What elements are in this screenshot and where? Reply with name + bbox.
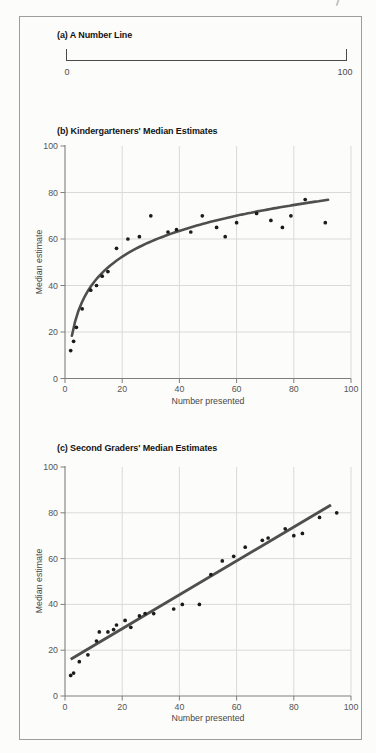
logarithmic-fit-curve	[72, 200, 328, 336]
print-artifact-mark	[336, 0, 341, 6]
data-point	[243, 545, 247, 549]
data-point	[200, 214, 204, 218]
data-point	[283, 527, 287, 531]
data-point	[80, 307, 84, 311]
x-tick-label: 60	[232, 702, 242, 712]
y-tick-label: 0	[53, 691, 58, 701]
number-line-min-label: 0	[64, 67, 69, 77]
data-point	[97, 630, 101, 634]
panel-c-chart: 020406080100020406080100	[0, 460, 376, 725]
x-tick-label: 80	[289, 384, 299, 394]
x-tick-label: 100	[344, 702, 359, 712]
data-point	[129, 625, 133, 629]
data-point	[189, 230, 193, 234]
data-point	[115, 623, 119, 627]
data-point	[115, 246, 119, 250]
y-tick-label: 40	[48, 281, 58, 291]
x-tick-label: 60	[232, 384, 242, 394]
data-point	[292, 534, 296, 538]
data-point	[255, 212, 259, 216]
panel-a-title: (a) A Number Line	[57, 30, 132, 40]
data-point	[95, 284, 99, 288]
x-tick-label: 100	[344, 384, 359, 394]
data-point	[89, 288, 93, 292]
y-tick-label: 100	[43, 141, 58, 151]
x-tick-label: 0	[63, 384, 68, 394]
x-tick-label: 20	[117, 702, 127, 712]
y-tick-label: 20	[48, 327, 58, 337]
y-tick-label: 60	[48, 554, 58, 564]
data-point	[69, 349, 73, 353]
data-point	[323, 221, 327, 225]
data-point	[172, 607, 176, 611]
data-point	[301, 532, 305, 536]
x-tick-label: 40	[175, 702, 185, 712]
y-tick-label: 20	[48, 645, 58, 655]
data-point	[281, 226, 285, 230]
x-tick-label: 40	[175, 384, 185, 394]
linear-fit-line	[71, 505, 331, 659]
data-point	[75, 325, 79, 329]
panel-c-x-axis-label: Number presented	[172, 713, 245, 723]
data-point	[143, 612, 147, 616]
data-point	[152, 612, 156, 616]
panel-b-y-axis-label: Median estimate	[34, 230, 44, 295]
panel-c-title: (c) Second Graders' Median Estimates	[57, 443, 217, 453]
data-point	[166, 230, 170, 234]
panel-b-chart: 020406080100020406080100	[0, 140, 376, 408]
data-point	[77, 660, 81, 664]
data-point	[303, 198, 307, 202]
data-point	[180, 603, 184, 607]
data-point	[223, 235, 227, 239]
data-point	[198, 603, 202, 607]
data-point	[86, 653, 90, 657]
panel-c-y-axis-label: Median estimate	[34, 549, 44, 614]
data-point	[138, 235, 142, 239]
data-point	[138, 614, 142, 618]
x-tick-label: 80	[289, 702, 299, 712]
y-tick-label: 80	[48, 508, 58, 518]
y-tick-label: 60	[48, 234, 58, 244]
data-point	[106, 630, 110, 634]
x-tick-label: 0	[63, 702, 68, 712]
panel-b-title: (b) Kindergarteners' Median Estimates	[57, 126, 217, 136]
data-point	[220, 559, 224, 563]
data-point	[215, 226, 219, 230]
data-point	[69, 674, 73, 678]
data-point	[269, 219, 273, 223]
data-point	[289, 214, 293, 218]
x-tick-label: 20	[117, 384, 127, 394]
data-point	[260, 538, 264, 542]
data-point	[335, 511, 339, 515]
data-point	[235, 221, 239, 225]
data-point	[149, 214, 153, 218]
data-point	[266, 536, 270, 540]
number-line-max-label: 100	[337, 67, 352, 77]
data-point	[209, 573, 213, 577]
data-point	[112, 628, 116, 632]
data-point	[95, 639, 99, 643]
data-point	[175, 228, 179, 232]
y-tick-label: 100	[43, 462, 58, 472]
data-point	[106, 270, 110, 274]
data-point	[126, 237, 130, 241]
y-tick-label: 40	[48, 599, 58, 609]
y-tick-label: 80	[48, 188, 58, 198]
panel-b-x-axis-label: Number presented	[172, 396, 245, 406]
data-point	[72, 339, 76, 343]
data-point	[123, 619, 127, 623]
data-point	[232, 554, 236, 558]
y-tick-label: 0	[53, 374, 58, 384]
data-point	[100, 274, 104, 278]
data-point	[72, 671, 76, 675]
number-line	[66, 60, 347, 61]
data-point	[318, 516, 322, 520]
